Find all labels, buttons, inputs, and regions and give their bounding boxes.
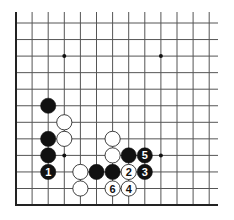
- white-stone: [73, 181, 88, 196]
- white-stone-icon: [57, 131, 72, 146]
- black-stone: 3: [137, 164, 152, 179]
- black-stone-icon: [41, 98, 56, 113]
- move-number: 1: [45, 166, 51, 178]
- white-stone: [73, 164, 88, 179]
- black-stone: 1: [41, 164, 56, 179]
- white-stone-icon: [105, 148, 120, 163]
- move-number: 6: [110, 183, 116, 195]
- black-stone: [41, 131, 56, 146]
- white-stone-icon: [73, 164, 88, 179]
- white-stone: 4: [121, 181, 136, 196]
- star-point-icon: [62, 54, 66, 58]
- star-point-icon: [159, 54, 163, 58]
- white-stone: 6: [105, 181, 120, 196]
- move-number: 4: [126, 183, 133, 195]
- black-stone-icon: [89, 164, 104, 179]
- black-stone-icon: [41, 131, 56, 146]
- black-stone: [41, 98, 56, 113]
- black-stone-icon: [121, 148, 136, 163]
- white-stone: [57, 131, 72, 146]
- move-number: 5: [142, 149, 148, 161]
- black-stone: 5: [137, 148, 152, 163]
- black-stone: [41, 148, 56, 163]
- white-stone-icon: [57, 115, 72, 130]
- white-stone: [57, 115, 72, 130]
- white-stone: 2: [121, 164, 136, 179]
- black-stone-icon: [41, 148, 56, 163]
- move-number: 3: [142, 166, 148, 178]
- black-stone: [105, 164, 120, 179]
- white-stone: [105, 148, 120, 163]
- star-point-icon: [62, 153, 66, 157]
- white-stone: [105, 131, 120, 146]
- star-point-icon: [159, 153, 163, 157]
- go-board: 152364: [0, 0, 234, 220]
- black-stone-icon: [105, 164, 120, 179]
- black-stone: [89, 164, 104, 179]
- white-stone-icon: [73, 181, 88, 196]
- white-stone-icon: [105, 131, 120, 146]
- black-stone: [121, 148, 136, 163]
- move-number: 2: [126, 166, 132, 178]
